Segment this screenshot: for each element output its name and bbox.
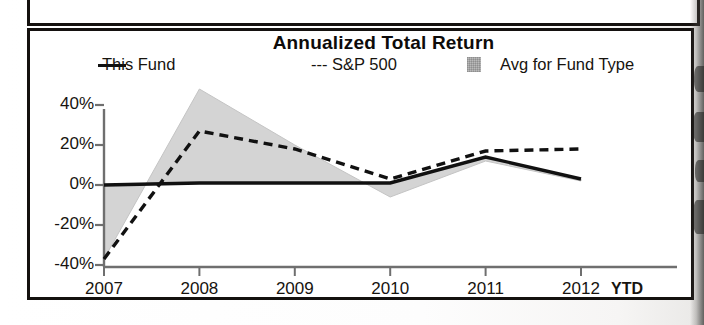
y-tick-label: 40%	[38, 94, 94, 114]
series-avg-for-fund-type-band	[104, 89, 581, 259]
x-tick-label: 2007	[69, 279, 139, 299]
scan-edge-blobs	[692, 60, 704, 260]
x-tick-label: 2009	[260, 279, 330, 299]
chart-panel: Annualized Total Return This Fund --- S&…	[27, 28, 694, 300]
x-tick-label: 2010	[355, 279, 425, 299]
x-axis-ytd-label: YTD	[611, 280, 643, 298]
chart-svg	[30, 31, 697, 303]
x-tick-label: 2008	[164, 279, 234, 299]
y-tick-label: -40%	[38, 254, 94, 274]
y-tick-label: 20%	[38, 134, 94, 154]
partial-box-above-chart	[27, 0, 700, 26]
y-tick-label: 0%	[38, 174, 94, 194]
x-tick-label: 2012	[546, 279, 616, 299]
y-tick-label: -20%	[38, 214, 94, 234]
plot-area	[30, 31, 697, 303]
x-tick-label: 2011	[451, 279, 521, 299]
